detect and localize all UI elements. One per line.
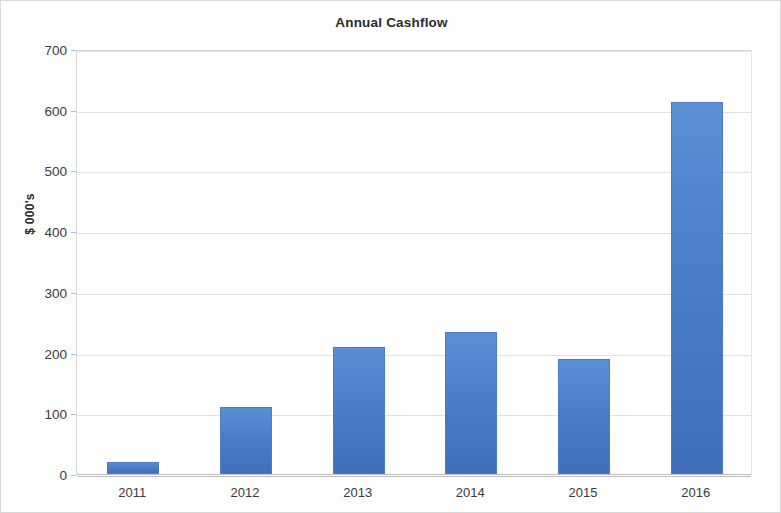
- y-axis-tick-label: 500: [1, 164, 67, 179]
- x-axis-tick-label: 2014: [415, 485, 525, 500]
- gridline: [77, 355, 751, 356]
- gridline: [77, 476, 751, 477]
- gridline: [77, 51, 751, 52]
- gridline: [77, 112, 751, 113]
- x-axis-tick-label: 2016: [641, 485, 751, 500]
- y-axis-tick-label: 100: [1, 407, 67, 422]
- x-axis-tick-label: 2012: [190, 485, 300, 500]
- x-axis-tick-label: 2015: [528, 485, 638, 500]
- chart-container: Annual Cashflow $ 000's 7006005004003002…: [0, 0, 781, 513]
- y-axis-tick-label: 600: [1, 103, 67, 118]
- bar[interactable]: [671, 102, 723, 474]
- y-axis-tick-label: 200: [1, 346, 67, 361]
- x-axis-tick-label: 2013: [303, 485, 413, 500]
- y-axis-tick-label: 400: [1, 225, 67, 240]
- gridline: [77, 172, 751, 173]
- chart-title: Annual Cashflow: [1, 15, 781, 30]
- bar[interactable]: [107, 462, 159, 474]
- y-axis-tick-mark: [71, 475, 76, 476]
- gridline: [77, 294, 751, 295]
- bar[interactable]: [333, 347, 385, 475]
- y-axis-tick-label: 0: [1, 468, 67, 483]
- plot-area: [76, 50, 752, 475]
- gridline: [77, 233, 751, 234]
- gridline: [77, 415, 751, 416]
- bar[interactable]: [445, 332, 497, 474]
- bar[interactable]: [558, 359, 610, 474]
- y-axis-tick-label: 300: [1, 285, 67, 300]
- bar[interactable]: [220, 407, 272, 474]
- x-axis-tick-label: 2011: [77, 485, 187, 500]
- y-axis-tick-label: 700: [1, 43, 67, 58]
